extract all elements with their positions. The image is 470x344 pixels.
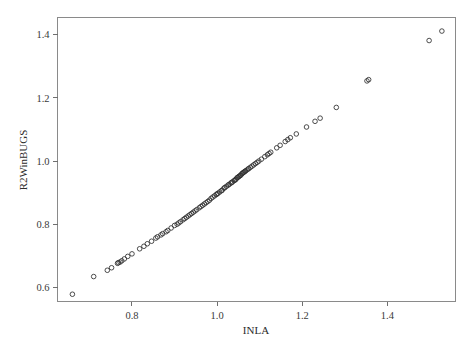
- x-tick-label: 1.2: [296, 310, 309, 321]
- data-point: [304, 125, 309, 130]
- y-tick-label: 0.8: [36, 219, 49, 230]
- data-point: [440, 29, 445, 34]
- data-point: [318, 116, 323, 121]
- y-axis-ticks: 0.60.81.01.21.4: [36, 29, 57, 292]
- y-tick-label: 1.0: [36, 156, 49, 167]
- data-point: [109, 265, 114, 270]
- data-point: [70, 292, 75, 297]
- data-point: [91, 274, 96, 279]
- data-point: [294, 132, 299, 137]
- x-tick-label: 0.8: [125, 310, 138, 321]
- data-point: [427, 38, 432, 43]
- scatter-plot-figure: 0.81.01.21.4 0.60.81.01.21.4 INLA R2WinB…: [0, 0, 470, 344]
- y-tick-label: 0.6: [36, 282, 49, 293]
- data-point: [149, 239, 154, 244]
- x-tick-label: 1.4: [381, 310, 395, 321]
- y-axis-title: R2WinBUGS: [17, 130, 29, 191]
- data-point: [137, 247, 142, 252]
- x-tick-label: 1.0: [211, 310, 224, 321]
- plot-frame: [58, 18, 456, 302]
- data-point: [334, 105, 339, 110]
- data-point: [130, 252, 135, 257]
- data-point: [145, 241, 150, 246]
- x-axis-ticks: 0.81.01.21.4: [125, 302, 394, 321]
- data-point: [125, 254, 130, 259]
- plot-canvas: 0.81.01.21.4 0.60.81.01.21.4 INLA R2WinB…: [0, 0, 470, 344]
- data-point: [313, 119, 318, 124]
- data-point: [105, 268, 110, 273]
- y-tick-label: 1.2: [36, 93, 49, 104]
- data-points: [70, 29, 444, 297]
- data-point: [278, 143, 283, 148]
- y-tick-label: 1.4: [36, 29, 50, 40]
- x-axis-title: INLA: [243, 324, 269, 336]
